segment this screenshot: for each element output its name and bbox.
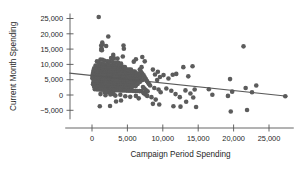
data-point	[171, 104, 176, 109]
x-tick-label: 25,000	[258, 134, 281, 143]
y-tick-label: 20,000	[40, 30, 63, 39]
data-point	[183, 88, 188, 93]
x-tick-label: 10,000	[151, 134, 174, 143]
data-point	[228, 77, 233, 82]
scatter-plot-figure: −5,00005,00010,00015,00020,00025,00005,0…	[0, 0, 302, 177]
data-point	[254, 83, 259, 88]
y-tick-label: 10,000	[40, 60, 63, 69]
data-point	[152, 86, 157, 91]
data-point	[166, 76, 171, 81]
data-point	[103, 93, 108, 98]
data-point	[100, 48, 105, 53]
data-point	[192, 87, 197, 92]
data-point	[104, 44, 109, 49]
data-point	[153, 97, 158, 102]
data-point	[191, 95, 196, 100]
data-point	[114, 99, 119, 104]
data-point	[149, 95, 154, 100]
data-point	[118, 92, 123, 97]
data-point	[115, 56, 120, 61]
data-point	[190, 64, 195, 69]
data-point	[158, 90, 163, 95]
data-point	[210, 92, 215, 97]
x-tick-label: 5,000	[118, 134, 137, 143]
data-point	[178, 104, 183, 109]
data-point	[142, 59, 147, 64]
data-point	[173, 92, 178, 97]
data-point	[188, 91, 193, 96]
x-tick-label: 15,000	[187, 134, 210, 143]
data-point	[177, 95, 182, 100]
data-point	[106, 34, 111, 39]
plot-canvas: −5,00005,00010,00015,00020,00025,00005,0…	[0, 0, 302, 177]
data-point	[174, 72, 179, 77]
data-point	[133, 84, 138, 89]
data-point	[153, 72, 158, 77]
y-tick-label: 15,000	[40, 45, 63, 54]
data-point	[226, 94, 231, 99]
data-point	[122, 46, 127, 51]
data-point	[157, 102, 162, 107]
y-tick-label: 0	[59, 91, 63, 100]
data-point	[245, 108, 250, 113]
data-point	[181, 65, 186, 70]
data-point	[139, 65, 144, 70]
data-point	[121, 54, 126, 59]
data-point	[136, 96, 141, 101]
y-tick-label: 25,000	[40, 14, 63, 23]
y-tick-label: −5,000	[40, 106, 63, 115]
data-point	[184, 99, 189, 104]
data-point	[113, 93, 118, 98]
data-point	[243, 86, 248, 91]
data-point	[151, 102, 156, 107]
y-tick-label: 5,000	[45, 75, 64, 84]
x-tick-label: 0	[90, 134, 94, 143]
data-point	[96, 15, 101, 20]
data-point	[228, 109, 233, 114]
data-point	[161, 73, 166, 78]
data-point	[186, 74, 191, 79]
data-point	[140, 55, 145, 60]
data-point	[194, 105, 199, 110]
data-point	[123, 94, 128, 99]
data-point	[148, 83, 153, 88]
data-point	[164, 86, 169, 91]
y-axis-title: Current Month Spending	[9, 21, 18, 111]
x-axis-title: Campaign Period Spending	[130, 150, 231, 159]
x-tick-label: 20,000	[222, 134, 245, 143]
data-point	[97, 104, 102, 109]
data-point	[241, 44, 246, 49]
data-point	[151, 67, 156, 72]
data-point	[119, 98, 124, 103]
data-point	[108, 92, 113, 97]
data-point	[155, 78, 160, 83]
data-point	[128, 95, 133, 100]
data-point	[108, 104, 113, 109]
data-point	[169, 88, 174, 93]
data-point	[134, 57, 139, 62]
data-point	[145, 94, 150, 99]
data-point	[98, 92, 103, 97]
data-points-group	[90, 15, 287, 114]
